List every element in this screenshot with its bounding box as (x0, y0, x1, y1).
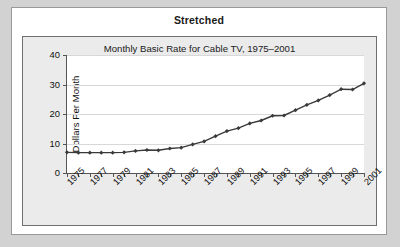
y-axis-tick-label: 40 (38, 49, 60, 60)
y-axis-tick-label: 0 (38, 167, 60, 178)
data-series-line (67, 55, 364, 173)
chart-title: Monthly Basic Rate for Cable TV, 1975–20… (23, 43, 376, 54)
plot-area: Dollars Per Month 010203040 197519771979… (66, 55, 364, 174)
stretched-panel: Stretched Monthly Basic Rate for Cable T… (11, 7, 387, 235)
x-axis-tick-label: 2001 (362, 166, 384, 188)
screenshot-root: Stretched Monthly Basic Rate for Cable T… (0, 0, 400, 247)
panel-header-label: Stretched (12, 14, 386, 26)
y-axis-tick-label: 20 (38, 108, 60, 119)
y-axis-tick-label: 10 (38, 138, 60, 149)
chart-container: Monthly Basic Rate for Cable TV, 1975–20… (22, 36, 377, 226)
y-axis-tick-label: 30 (38, 79, 60, 90)
